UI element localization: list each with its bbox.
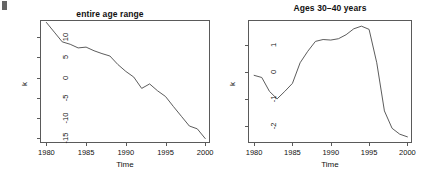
xtick-mark: [407, 143, 408, 146]
ytick-mark: [245, 72, 248, 73]
ytick-mark: [37, 78, 40, 79]
ytick-label: -15: [61, 125, 70, 151]
panel-right-yaxis-label: k: [228, 82, 237, 86]
ytick-mark: [245, 99, 248, 100]
xtick-mark: [205, 143, 206, 146]
ytick-mark: [37, 37, 40, 38]
xtick-label: 1985: [70, 148, 102, 157]
xtick-mark: [292, 143, 293, 146]
xtick-label: 2000: [391, 148, 423, 157]
ytick-label: -1: [269, 86, 278, 112]
xtick-label: 1990: [110, 148, 142, 157]
xtick-label: 1990: [315, 148, 347, 157]
chart-panel-left: entire age range 19801985199019952000105…: [0, 0, 220, 178]
xtick-mark: [166, 143, 167, 146]
ytick-mark: [37, 118, 40, 119]
ytick-mark: [37, 98, 40, 99]
chart-panel-right: Ages 30–40 years 1980198519901995200010-…: [220, 0, 440, 178]
xtick-mark: [254, 143, 255, 146]
xtick-label: 1980: [30, 148, 62, 157]
panel-left-xaxis-label: Time: [40, 160, 210, 169]
xtick-mark: [46, 143, 47, 146]
xtick-mark: [331, 143, 332, 146]
panel-right-xaxis-label: Time: [248, 160, 412, 169]
xtick-label: 2000: [189, 148, 221, 157]
panel-left-yaxis-label: k: [20, 82, 29, 86]
ytick-label: -2: [269, 113, 278, 139]
ytick-label: 0: [269, 59, 278, 85]
xtick-label: 1995: [353, 148, 385, 157]
xtick-mark: [86, 143, 87, 146]
xtick-label: 1995: [150, 148, 182, 157]
ytick-mark: [245, 126, 248, 127]
ytick-label: 1: [269, 32, 278, 58]
xtick-mark: [369, 143, 370, 146]
ytick-mark: [245, 45, 248, 46]
ytick-mark: [37, 57, 40, 58]
ytick-mark: [37, 138, 40, 139]
xtick-mark: [126, 143, 127, 146]
xtick-label: 1980: [238, 148, 270, 157]
xtick-label: 1985: [276, 148, 308, 157]
